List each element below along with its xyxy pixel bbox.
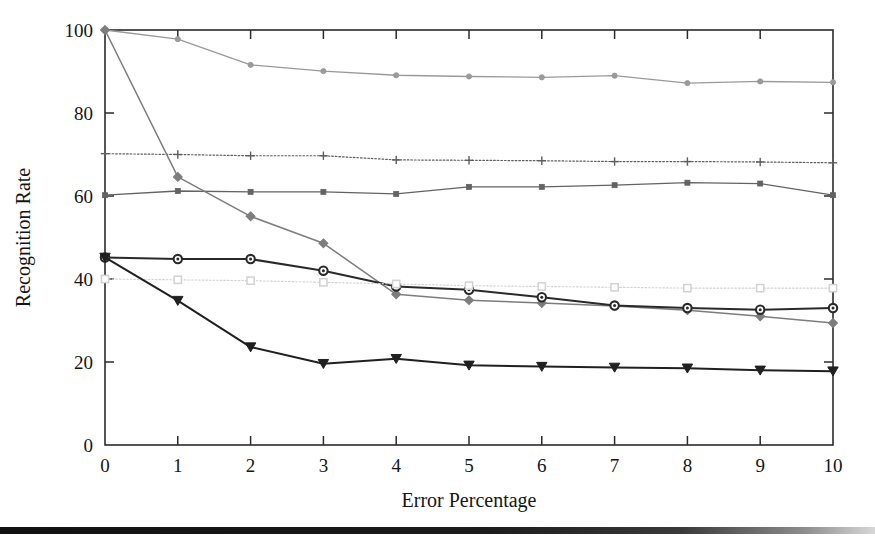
data-point-marker: [758, 79, 763, 84]
line-chart: 012345678910020406080100Error Percentage…: [0, 0, 875, 547]
series-series-2: [101, 149, 837, 167]
marker-circle-dot: [249, 258, 252, 261]
marker-square-open: [684, 285, 691, 292]
x-tick-label: 8: [683, 455, 693, 476]
marker-square-open: [757, 285, 764, 292]
marker-square: [467, 184, 472, 189]
marker-square: [103, 193, 108, 198]
marker-circle: [175, 37, 180, 42]
data-point-marker: [612, 73, 617, 78]
marker-circle: [612, 73, 617, 78]
marker-circle-dot: [686, 307, 689, 310]
marker-circle: [539, 75, 544, 80]
data-point-marker: [539, 184, 544, 189]
marker-circle: [248, 62, 253, 67]
data-point-marker: [175, 189, 180, 194]
marker-square: [539, 184, 544, 189]
data-point-marker: [610, 301, 618, 309]
data-point-marker: [465, 282, 472, 289]
y-tick-label: 0: [84, 435, 94, 456]
data-point-marker: [319, 239, 328, 248]
marker-circle: [466, 74, 471, 79]
data-point-marker: [248, 62, 253, 67]
data-point-marker: [610, 157, 618, 165]
data-point-marker: [538, 293, 546, 301]
marker-circle: [321, 68, 326, 73]
data-point-marker: [756, 158, 764, 166]
marker-circle-dot: [176, 258, 179, 261]
data-point-marker: [830, 80, 835, 85]
data-point-marker: [319, 152, 327, 160]
data-point-marker: [321, 68, 326, 73]
data-point-marker: [466, 74, 471, 79]
data-point-marker: [246, 212, 255, 221]
data-point-marker: [246, 255, 254, 263]
data-point-marker: [538, 283, 545, 290]
data-point-marker: [829, 159, 837, 167]
data-point-marker: [320, 279, 327, 286]
marker-diamond: [465, 296, 474, 305]
series-series-6: [101, 275, 836, 291]
x-tick-label: 9: [755, 455, 765, 476]
data-point-marker: [829, 319, 838, 328]
data-point-marker: [173, 173, 182, 182]
data-point-marker: [394, 73, 399, 78]
marker-square: [248, 189, 253, 194]
x-tick-label: 7: [610, 455, 620, 476]
marker-circle-dot: [540, 296, 543, 299]
marker-square: [321, 189, 326, 194]
marker-square: [685, 180, 690, 185]
data-point-marker: [829, 285, 836, 292]
marker-square: [831, 193, 836, 198]
x-tick-label: 6: [537, 455, 547, 476]
series-series-7: [100, 253, 838, 376]
data-point-marker: [465, 296, 474, 305]
marker-circle: [394, 73, 399, 78]
data-point-marker: [758, 181, 763, 186]
y-tick-label: 60: [74, 186, 93, 207]
data-point-marker: [175, 37, 180, 42]
data-point-marker: [247, 277, 254, 284]
marker-square: [758, 181, 763, 186]
data-point-marker: [465, 156, 473, 164]
marker-square: [612, 183, 617, 188]
data-point-marker: [394, 191, 399, 196]
marker-square: [394, 191, 399, 196]
x-tick-label: 10: [824, 455, 843, 476]
marker-diamond: [173, 173, 182, 182]
y-tick-label: 100: [65, 20, 94, 41]
data-point-marker: [683, 157, 691, 165]
marker-circle-dot: [832, 307, 835, 310]
data-point-marker: [612, 183, 617, 188]
data-point-marker: [321, 189, 326, 194]
figure-container: 012345678910020406080100Error Percentage…: [0, 0, 875, 547]
data-point-marker: [319, 267, 327, 275]
data-point-marker: [246, 152, 254, 160]
y-tick-label: 40: [74, 269, 93, 290]
plot-series: [100, 26, 838, 376]
data-point-marker: [611, 284, 618, 291]
data-point-marker: [101, 149, 109, 157]
marker-circle: [758, 79, 763, 84]
marker-square: [175, 189, 180, 194]
marker-circle: [685, 81, 690, 86]
data-point-marker: [393, 280, 400, 287]
data-point-marker: [538, 157, 546, 165]
data-point-marker: [467, 184, 472, 189]
data-point-marker: [174, 276, 181, 283]
data-point-marker: [685, 180, 690, 185]
x-tick-label: 4: [391, 455, 401, 476]
y-tick-label: 80: [74, 103, 93, 124]
marker-square-open: [320, 279, 327, 286]
marker-circle: [830, 80, 835, 85]
marker-circle-dot: [322, 269, 325, 272]
marker-square-open: [101, 275, 108, 282]
x-tick-label: 3: [319, 455, 329, 476]
data-point-marker: [539, 75, 544, 80]
marker-diamond: [101, 26, 110, 35]
marker-diamond: [246, 212, 255, 221]
data-point-marker: [831, 193, 836, 198]
data-point-marker: [683, 304, 691, 312]
marker-circle-dot: [759, 308, 762, 311]
marker-square-open: [611, 284, 618, 291]
